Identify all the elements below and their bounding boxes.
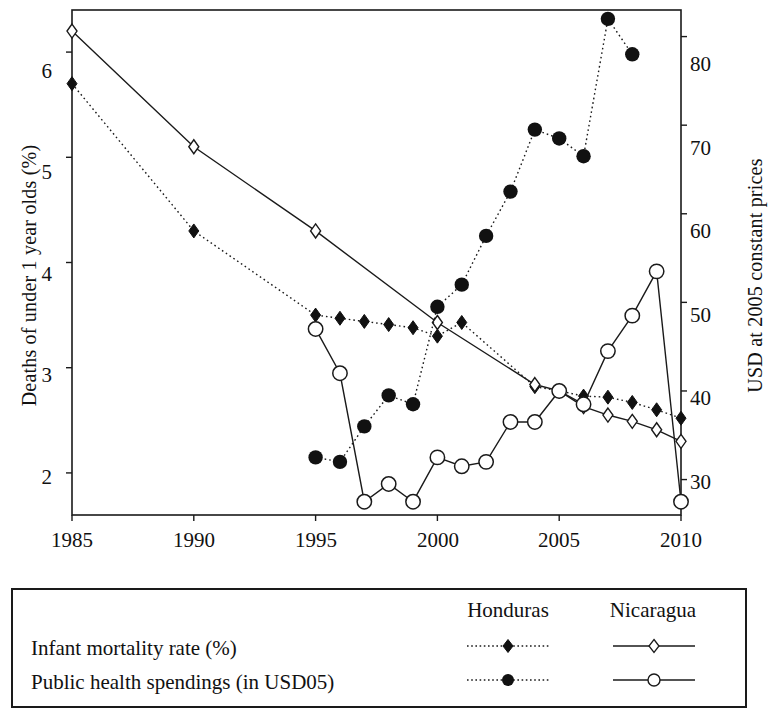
data-point-2008 [625, 308, 639, 322]
data-point-2008 [625, 47, 639, 61]
data-point-2000 [430, 450, 444, 464]
data-point-2004 [528, 415, 542, 429]
x-tick-1995: 1995 [276, 530, 356, 551]
legend-label-infant-mortality: Infant mortality rate (%) [31, 636, 237, 661]
x-tick-1990: 1990 [154, 530, 234, 551]
y-tick-right-40: 40 [690, 388, 730, 409]
x-tick-1985: 1985 [32, 530, 112, 551]
data-point-2003 [503, 415, 517, 429]
data-point-1999 [406, 397, 420, 411]
data-point-1998 [381, 477, 395, 491]
data-point-2005 [552, 131, 566, 145]
x-tick-2005: 2005 [519, 530, 599, 551]
legend-header-honduras: Honduras [433, 598, 583, 623]
data-point-1997 [359, 314, 369, 328]
data-point-1995 [308, 450, 322, 464]
legend-sample-nicaragua-spending [611, 670, 697, 690]
data-point-2001 [455, 459, 469, 473]
data-point-2006 [576, 397, 590, 411]
data-point-1996 [333, 366, 347, 380]
axis-ticks [66, 37, 687, 521]
y-tick-right-60: 60 [690, 221, 730, 242]
data-point-1985 [67, 24, 77, 38]
data-point-1990 [189, 140, 199, 154]
data-point-2001 [457, 315, 467, 329]
data-point-1995 [311, 308, 321, 322]
data-point-1998 [384, 318, 394, 332]
legend-sample-honduras-imr [465, 636, 551, 656]
data-point-2007 [603, 408, 613, 422]
data-point-2010 [676, 411, 686, 425]
chart-area: Deaths of under 1 year olds (%) USD at 2… [0, 0, 769, 575]
series-line-3 [316, 271, 681, 501]
y-tick-left-6: 6 [18, 61, 52, 82]
chart-page: Deaths of under 1 year olds (%) USD at 2… [0, 0, 769, 722]
data-point-1996 [333, 455, 347, 469]
series-line-1 [72, 31, 681, 441]
legend: Honduras Nicaragua Infant mortality rate… [11, 588, 747, 708]
series-honduras-imr [67, 77, 686, 426]
data-point-2001 [455, 277, 469, 291]
legend-sample-nicaragua-imr [611, 636, 697, 656]
data-point-2009 [652, 423, 662, 437]
data-point-2000 [432, 329, 442, 343]
data-point-2010 [674, 495, 688, 509]
y-tick-left-4: 4 [18, 264, 52, 285]
y-tick-left-3: 3 [18, 365, 52, 386]
data-point-1999 [408, 321, 418, 335]
data-point-2009 [652, 403, 662, 417]
y-tick-right-80: 80 [690, 54, 730, 75]
plot-svg [0, 0, 769, 575]
y-tick-left-5: 5 [18, 162, 52, 183]
y-axis-right-label: USD at 2005 constant prices [744, 61, 767, 491]
series-group [67, 12, 688, 509]
y-tick-left-2: 2 [18, 467, 52, 488]
y-tick-right-30: 30 [690, 472, 730, 493]
data-point-1998 [381, 388, 395, 402]
series-nicaragua-spending [308, 264, 688, 509]
data-point-2008 [627, 395, 637, 409]
data-point-2000 [430, 300, 444, 314]
data-point-2009 [649, 264, 663, 278]
data-point-2010 [676, 434, 686, 448]
data-point-2004 [528, 122, 542, 136]
data-point-2002 [479, 455, 493, 469]
legend-header-nicaragua: Nicaragua [573, 598, 733, 623]
data-point-1995 [308, 322, 322, 336]
x-tick-2000: 2000 [398, 530, 478, 551]
data-point-2007 [603, 390, 613, 404]
data-point-2006 [576, 149, 590, 163]
data-point-1996 [335, 311, 345, 325]
legend-label-public-health-spendings: Public health spendings (in USD05) [31, 670, 334, 695]
data-point-1995 [311, 224, 321, 238]
data-point-1999 [406, 495, 420, 509]
series-line-0 [72, 84, 681, 419]
data-point-2007 [601, 344, 615, 358]
data-point-2003 [503, 184, 517, 198]
data-point-1997 [357, 419, 371, 433]
x-tick-2010: 2010 [641, 530, 721, 551]
legend-sample-honduras-spending [465, 670, 551, 690]
plot-frame [72, 10, 681, 515]
data-point-2005 [552, 384, 566, 398]
data-point-2007 [601, 12, 615, 26]
data-point-2002 [479, 229, 493, 243]
y-tick-right-70: 70 [690, 138, 730, 159]
data-point-1997 [357, 495, 371, 509]
y-tick-right-50: 50 [690, 305, 730, 326]
data-point-2008 [627, 414, 637, 428]
